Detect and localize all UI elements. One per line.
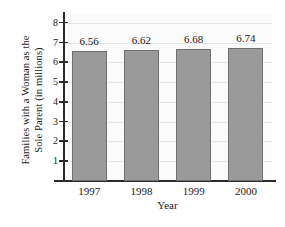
x-axis-tick-label: 2000 xyxy=(235,186,257,197)
y-axis-tick-label: 3 xyxy=(53,117,58,127)
bar-value-label: 6.62 xyxy=(132,35,151,46)
y-axis-tick-label: 4 xyxy=(53,97,58,107)
y-axis-tick-label: 7 xyxy=(53,38,58,48)
bar xyxy=(124,50,159,181)
x-axis-tick-label: 1997 xyxy=(78,186,100,197)
bar-value-label: 6.68 xyxy=(184,34,203,45)
y-axis-tick-label: 2 xyxy=(53,136,58,146)
bar xyxy=(228,48,263,181)
bar-group: 6.742000 xyxy=(220,14,272,181)
bar-value-label: 6.74 xyxy=(236,33,255,44)
y-axis-tick-label: 6 xyxy=(53,57,58,67)
bar-chart-figure: Families with a Woman as the Sole Parent… xyxy=(0,0,285,227)
bar-value-label: 6.56 xyxy=(80,36,99,47)
bar xyxy=(72,51,107,181)
y-axis-title: Families with a Woman as the Sole Parent… xyxy=(15,15,49,185)
y-axis-tick-label: 5 xyxy=(53,77,58,87)
x-axis-tick-label: 1998 xyxy=(130,186,152,197)
bar-group: 6.621998 xyxy=(115,14,167,181)
x-axis-tick-label: 1999 xyxy=(183,186,205,197)
bar-series: 6.5619976.6219986.6819996.742000 xyxy=(63,14,272,181)
plot-area: 87654321 6.5619976.6219986.6819996.74200… xyxy=(63,14,272,181)
y-axis-tick-label: 8 xyxy=(53,18,58,28)
y-axis-title-line-2: Sole Parent (in millions) xyxy=(32,47,45,152)
bar-group: 6.681999 xyxy=(168,14,220,181)
bar xyxy=(176,49,211,181)
y-axis-tick-label: 1 xyxy=(53,156,58,166)
y-axis-title-line-1: Families with a Woman as the xyxy=(19,35,32,164)
x-axis-title: Year xyxy=(63,199,272,211)
bar-group: 6.561997 xyxy=(63,14,115,181)
